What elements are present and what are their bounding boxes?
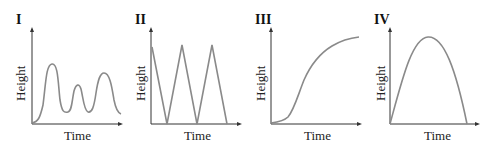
- chart-panel-2: II Height Time: [120, 0, 242, 146]
- chart-panel-1: I Height Time: [0, 0, 122, 146]
- plot-area: [360, 0, 491, 146]
- plot-area: [120, 0, 242, 146]
- chart-panel-3: III Height Time: [240, 0, 362, 146]
- plot-area: [240, 0, 370, 146]
- chart-panel-4: IV Height Time: [360, 0, 482, 146]
- plot-area: [0, 0, 122, 146]
